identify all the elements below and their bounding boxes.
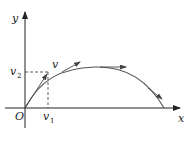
svg-text:v: v — [43, 110, 50, 123]
svg-text:1: 1 — [50, 117, 54, 125]
v1-label: v 1 — [43, 110, 54, 125]
v2-label: v 2 — [10, 65, 21, 80]
tangent-arrow-3 — [148, 88, 162, 99]
y-axis-label: y — [11, 12, 19, 25]
velocity-vector-arrow — [25, 74, 47, 108]
x-axis-label: x — [178, 112, 185, 125]
velocity-label: v — [52, 58, 59, 71]
svg-text:v: v — [10, 65, 17, 78]
origin-label: O — [15, 110, 24, 123]
trajectory-curve — [25, 67, 164, 108]
diagram-canvas: y x O v v 2 v 1 — [0, 0, 190, 141]
svg-text:2: 2 — [17, 72, 21, 80]
